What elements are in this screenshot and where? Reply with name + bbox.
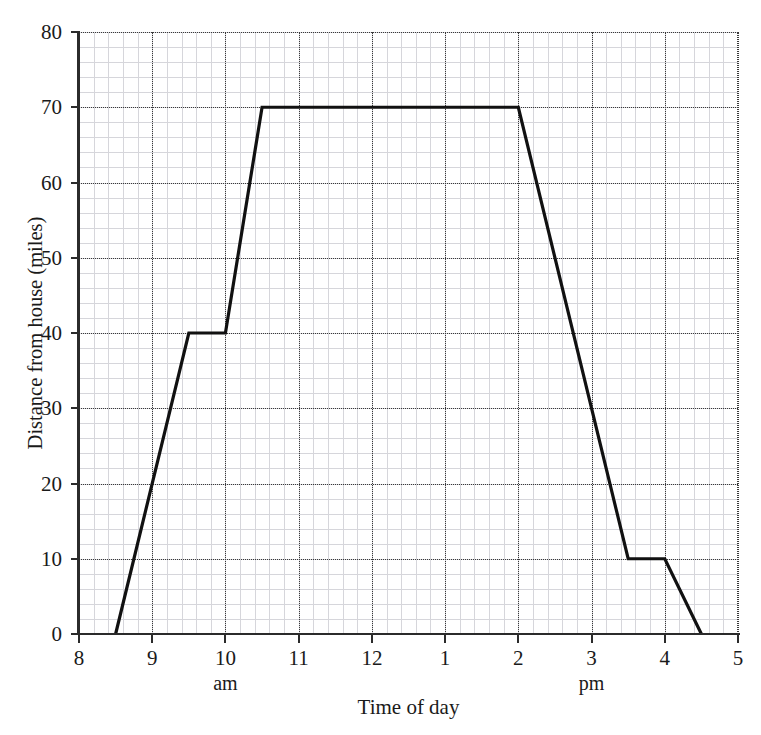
x-axis-tick-label: 1: [440, 648, 451, 669]
y-axis-tick: [71, 483, 79, 485]
x-axis-tick: [298, 635, 300, 643]
x-axis-tick: [444, 635, 446, 643]
y-axis-tick: [71, 332, 79, 334]
x-axis-period-label: pm: [579, 673, 605, 693]
x-axis-title: Time of day: [79, 694, 738, 720]
x-axis-tick: [371, 635, 373, 643]
y-axis-tick: [71, 407, 79, 409]
y-axis-tick-label: 0: [52, 624, 63, 645]
y-axis-title: Distance from house (miles): [22, 32, 48, 634]
x-axis-tick-label: 3: [586, 648, 597, 669]
y-axis-tick: [71, 106, 79, 108]
x-axis-tick-label: 10: [215, 648, 236, 669]
x-axis-tick-label: 8: [74, 648, 85, 669]
x-axis-tick-label: 5: [733, 648, 744, 669]
distance-time-chart: 01020304050607080 8910111212345 ampm Dis…: [0, 0, 761, 735]
x-axis-tick: [78, 635, 80, 643]
x-axis-tick: [224, 635, 226, 643]
x-axis-period-label: am: [213, 673, 237, 693]
y-axis-tick: [71, 257, 79, 259]
x-axis-tick-label: 9: [147, 648, 158, 669]
x-axis-tick: [591, 635, 593, 643]
x-axis-tick-label: 11: [289, 648, 309, 669]
x-axis-tick: [517, 635, 519, 643]
x-axis-tick: [151, 635, 153, 643]
x-axis-line: [77, 633, 740, 636]
x-axis-tick-label: 4: [660, 648, 671, 669]
y-axis-tick: [71, 558, 79, 560]
x-axis-tick-label: 2: [513, 648, 524, 669]
y-axis-tick: [71, 182, 79, 184]
data-line-series: [79, 32, 738, 634]
plot-area: [79, 32, 738, 634]
x-axis-tick: [737, 635, 739, 643]
x-axis-tick-label: 12: [361, 648, 382, 669]
y-axis-tick: [71, 31, 79, 33]
gridline-vertical: [738, 32, 739, 634]
x-axis-tick: [664, 635, 666, 643]
